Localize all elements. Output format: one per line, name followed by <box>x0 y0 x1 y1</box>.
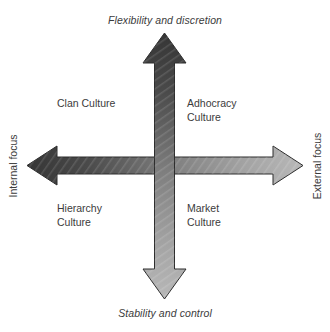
competing-values-framework-diagram: Flexibility and discretion Stability and… <box>0 0 330 332</box>
axis-label-flexibility-and-discretion: Flexibility and discretion <box>0 14 330 26</box>
quadrant-label-hierarchy-culture: Hierarchy Culture <box>57 202 102 229</box>
axis-label-internal-focus: Internal focus <box>7 126 19 206</box>
quadrant-label-market-culture: Market Culture <box>187 202 221 229</box>
axis-label-external-focus: External focus <box>311 126 323 206</box>
axes-arrows-graphic <box>0 0 330 332</box>
quadrant-label-adhocracy-culture: Adhocracy Culture <box>187 97 237 124</box>
quadrant-label-clan-culture: Clan Culture <box>57 97 115 111</box>
axis-label-stability-and-control: Stability and control <box>0 307 330 319</box>
